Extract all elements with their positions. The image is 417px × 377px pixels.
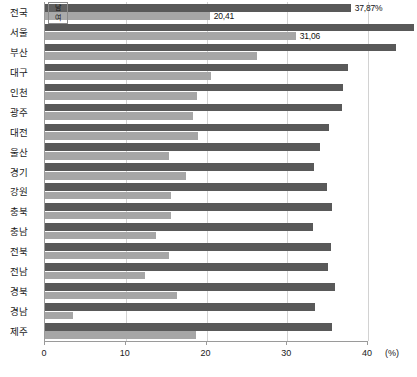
bar-wrapper — [45, 192, 368, 200]
bar-male — [45, 24, 414, 32]
bar-male — [45, 183, 327, 191]
bar-wrapper — [45, 72, 368, 80]
bar-wrapper — [45, 331, 368, 339]
bar-female — [45, 112, 193, 120]
category-label-14: 경북 — [0, 284, 38, 298]
bar-female — [45, 232, 156, 240]
bar-group — [45, 162, 368, 182]
bar-wrapper — [45, 252, 368, 260]
category-label-3: 대구 — [0, 65, 38, 79]
bar-wrapper — [45, 283, 368, 291]
bar-wrapper — [45, 172, 368, 180]
bar-wrapper — [45, 183, 368, 191]
bar-female — [45, 32, 296, 40]
bar-value-label: 37,87% — [355, 3, 383, 13]
axis-tick-label-30: 30 — [281, 348, 291, 358]
category-label-11: 충남 — [0, 224, 38, 238]
bar-female — [45, 272, 145, 280]
bar-female — [45, 132, 198, 140]
axis-tick-label-40: 40 — [362, 348, 372, 358]
bar-male — [45, 323, 332, 331]
bar-male — [45, 203, 332, 211]
bar-chart: 37,87%20,4145,7231,06 전국서울부산대구인천광주대전울산경기… — [0, 0, 417, 377]
axis-tick-40 — [367, 341, 368, 345]
bar-group — [45, 321, 368, 341]
bar-value-label: 31,06 — [300, 31, 320, 41]
axis-tick-label-20: 20 — [200, 348, 210, 358]
axis-tick-label-0: 0 — [41, 348, 46, 358]
bar-group — [45, 241, 368, 261]
bar-wrapper — [45, 212, 368, 220]
category-label-7: 울산 — [0, 145, 38, 159]
legend: 남 여 — [48, 2, 68, 24]
bar-female — [45, 72, 211, 80]
category-label-4: 인천 — [0, 85, 38, 99]
bar-male — [45, 4, 351, 12]
bar-male — [45, 163, 314, 171]
bar-female — [45, 152, 169, 160]
bar-group — [45, 301, 368, 321]
bar-male — [45, 64, 348, 72]
bar-female — [45, 52, 257, 60]
gridline-40 — [368, 2, 369, 341]
category-label-6: 대전 — [0, 125, 38, 139]
category-label-15: 경남 — [0, 304, 38, 318]
bar-wrapper — [45, 92, 368, 100]
category-label-10: 충북 — [0, 204, 38, 218]
category-label-1: 서울 — [0, 25, 38, 39]
axis-unit-label: (%) — [385, 348, 399, 358]
axis-tick-10 — [125, 341, 126, 345]
bar-group — [45, 181, 368, 201]
bar-rows: 37,87%20,4145,7231,06 — [45, 2, 368, 341]
category-label-5: 광주 — [0, 105, 38, 119]
bar-wrapper — [45, 143, 368, 151]
bar-female — [45, 172, 186, 180]
category-label-13: 전남 — [0, 264, 38, 278]
bar-wrapper — [45, 104, 368, 112]
bar-group — [45, 201, 368, 221]
bar-wrapper: 20,41 — [45, 12, 368, 20]
bar-value-label: 20,41 — [214, 11, 234, 21]
bar-wrapper — [45, 223, 368, 231]
bar-wrapper — [45, 112, 368, 120]
bar-group: 45,7231,06 — [45, 22, 368, 42]
bar-wrapper — [45, 203, 368, 211]
bar-wrapper: 31,06 — [45, 32, 368, 40]
bar-female — [45, 192, 171, 200]
bar-group — [45, 261, 368, 281]
bar-group — [45, 142, 368, 162]
category-label-0: 전국 — [0, 5, 38, 19]
bar-male — [45, 44, 396, 52]
bar-male — [45, 223, 313, 231]
bar-group — [45, 102, 368, 122]
bar-wrapper: 37,87% — [45, 4, 368, 12]
bar-wrapper — [45, 272, 368, 280]
bar-wrapper — [45, 44, 368, 52]
bar-wrapper — [45, 163, 368, 171]
bar-group — [45, 82, 368, 102]
bar-group: 37,87%20,41 — [45, 2, 368, 22]
bar-wrapper — [45, 323, 368, 331]
bar-wrapper — [45, 64, 368, 72]
bar-female — [45, 12, 210, 20]
axis-tick-0 — [44, 341, 45, 345]
bar-female — [45, 92, 197, 100]
bar-wrapper — [45, 132, 368, 140]
bar-male — [45, 143, 320, 151]
bar-female — [45, 292, 177, 300]
category-label-9: 강원 — [0, 184, 38, 198]
bar-wrapper — [45, 312, 368, 320]
bar-male — [45, 243, 331, 251]
category-label-8: 경기 — [0, 165, 38, 179]
bar-male — [45, 263, 328, 271]
bar-male — [45, 84, 343, 92]
bar-male — [45, 283, 335, 291]
bar-wrapper — [45, 232, 368, 240]
bar-group — [45, 122, 368, 142]
bar-wrapper — [45, 292, 368, 300]
bar-wrapper — [45, 263, 368, 271]
legend-item-male: 남 — [55, 4, 61, 12]
bar-wrapper — [45, 52, 368, 60]
bar-male — [45, 124, 329, 132]
bar-male — [45, 303, 315, 311]
